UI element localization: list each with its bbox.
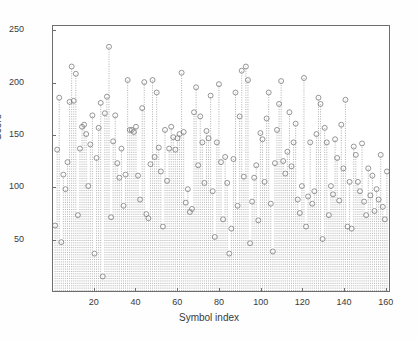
x-tick-mark — [219, 288, 220, 292]
x-tick-label: 100 — [241, 298, 281, 307]
x-tick-label: 40 — [115, 298, 155, 307]
y-tick-mark — [52, 240, 56, 241]
y-tick-label: 50 — [0, 235, 24, 244]
x-tick-mark — [261, 288, 262, 292]
x-tick-label: 160 — [366, 298, 406, 307]
x-tick-mark — [344, 288, 345, 292]
x-tick-label: 20 — [74, 298, 114, 307]
y-tick-label: 100 — [0, 182, 24, 191]
x-tick-label: 80 — [199, 298, 239, 307]
x-tick-mark — [135, 288, 136, 292]
y-tick-mark — [52, 187, 56, 188]
y-tick-mark — [52, 30, 56, 31]
stem-plot-figure: 50100150200250 20406080100120140160 Scor… — [0, 0, 418, 340]
x-tick-label: 140 — [324, 298, 364, 307]
x-tick-label: 120 — [282, 298, 322, 307]
y-tick-label: 150 — [0, 130, 24, 139]
x-tick-mark — [94, 288, 95, 292]
y-tick-mark — [52, 135, 56, 136]
y-tick-label: 250 — [0, 25, 24, 34]
stem-series-canvas — [53, 26, 389, 291]
y-tick-mark — [52, 83, 56, 84]
x-tick-mark — [386, 288, 387, 292]
plot-area — [52, 25, 390, 292]
x-tick-mark — [177, 288, 178, 292]
x-tick-label: 60 — [157, 298, 197, 307]
y-tick-label: 200 — [0, 78, 24, 87]
x-axis-label: Symbol index — [0, 312, 418, 323]
x-tick-mark — [302, 288, 303, 292]
y-axis-label: Score — [0, 114, 3, 140]
